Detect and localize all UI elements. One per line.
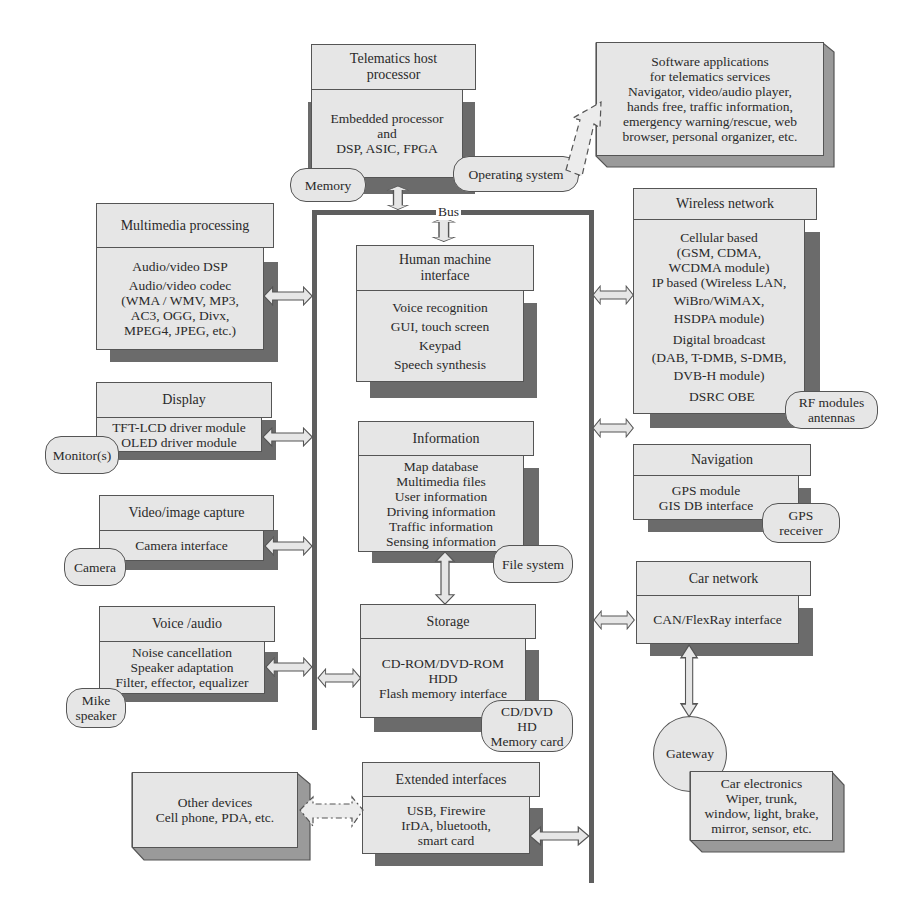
arrow-display-bus	[263, 428, 312, 446]
bus-label: Bus	[436, 204, 461, 220]
arrow-host-bus	[388, 186, 408, 210]
arrow-extended-bus	[530, 827, 589, 845]
connector-arrows	[0, 0, 919, 907]
arrow-bus-navigation	[593, 419, 633, 437]
arrow-voice-bus	[266, 658, 312, 676]
arrow-car-network-gateway	[681, 645, 697, 717]
arrow-information-storage	[436, 552, 454, 604]
arrow-bus-wireless	[593, 286, 633, 304]
arrow-bus-hmi	[433, 218, 455, 242]
arrow-multimedia-bus	[264, 287, 312, 305]
dashed-arrow-os-software	[566, 102, 601, 176]
arrow-video-bus	[265, 537, 312, 555]
dashed-arrow-other-extended	[300, 797, 363, 826]
arrow-bus-storage	[318, 669, 361, 687]
